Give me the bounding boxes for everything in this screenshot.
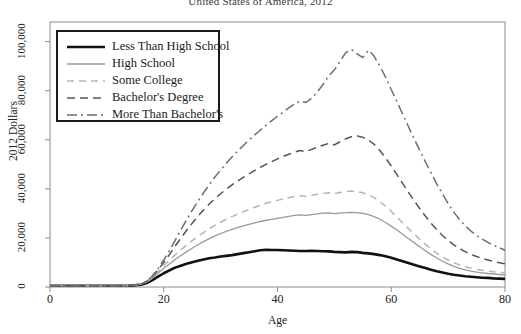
x-axis-title: Age xyxy=(50,314,505,326)
legend-line-swatch xyxy=(66,75,106,87)
chart-title: United States of America, 2012 xyxy=(0,0,521,7)
x-tick-label: 60 xyxy=(371,292,411,307)
legend-line-swatch xyxy=(66,58,106,70)
legend-item: Bachelor's Degree xyxy=(66,89,218,106)
legend-line-swatch xyxy=(66,41,106,53)
legend-label: Some College xyxy=(112,74,182,87)
series-line-3 xyxy=(50,136,505,286)
y-tick-label: 0 xyxy=(15,265,27,307)
legend-label: Bachelor's Degree xyxy=(112,91,203,104)
y-tick-label: 40,000 xyxy=(15,167,27,209)
legend-line-swatch xyxy=(66,92,106,104)
y-tick-label: 60,000 xyxy=(15,118,27,160)
legend-label: High School xyxy=(112,57,175,70)
legend-item: High School xyxy=(66,55,218,72)
legend-item: More Than Bachelor's xyxy=(66,106,218,123)
x-tick-label: 0 xyxy=(30,292,70,307)
y-tick-label: 20,000 xyxy=(15,216,27,258)
series-line-0 xyxy=(50,250,505,286)
chart-container: United States of America, 2012 2012 Doll… xyxy=(0,0,521,334)
legend: Less Than High SchoolHigh SchoolSome Col… xyxy=(56,30,220,122)
legend-label: More Than Bachelor's xyxy=(112,108,223,121)
legend-line-swatch xyxy=(66,109,106,121)
legend-label: Less Than High School xyxy=(112,40,229,53)
y-tick-label: 100,000 xyxy=(15,20,27,62)
legend-item: Less Than High School xyxy=(66,38,218,55)
x-tick-label: 20 xyxy=(144,292,184,307)
x-tick-label: 40 xyxy=(258,292,298,307)
y-tick-label: 80,000 xyxy=(15,69,27,111)
x-tick-label: 80 xyxy=(485,292,521,307)
legend-item: Some College xyxy=(66,72,218,89)
